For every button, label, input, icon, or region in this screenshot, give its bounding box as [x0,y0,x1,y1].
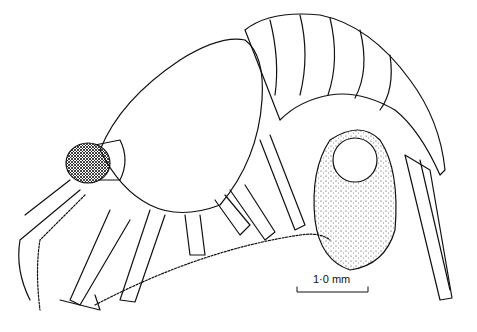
scale-bar [297,287,368,292]
carapace [100,39,262,212]
uropods [405,155,452,300]
rostrum [19,180,80,300]
crustacean-illustration [0,0,477,332]
scale-bar-label: 1·0 mm [313,273,350,285]
eye [66,143,110,183]
cheliped [70,210,130,305]
